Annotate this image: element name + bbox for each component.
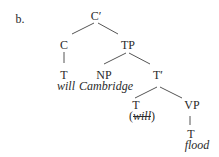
node-c: C [60,39,68,51]
node-tbar: T′ [153,69,163,81]
word-will-struck: will [133,109,151,123]
paren-close: ) [151,109,155,123]
word-flood: flood [185,139,210,151]
word-cambridge: Cambridge [79,80,133,92]
branch-tp-np [104,53,126,64]
branch-tbar-vp [160,87,182,98]
node-tp: TP [121,39,135,51]
example-label: b. [16,13,25,25]
node-cbar: C′ [91,10,102,22]
branch-tbar-t [135,87,157,98]
branch-tp-tbar [129,53,150,64]
branch-cbar-c [72,23,94,34]
node-vp: VP [184,99,199,111]
word-will-trace: (will) [129,110,155,122]
word-will: will [57,80,75,92]
branch-cbar-tp [98,23,118,34]
